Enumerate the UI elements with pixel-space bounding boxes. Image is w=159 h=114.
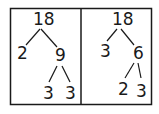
branch-line [49,66,57,82]
tree-root: 18 [33,9,55,29]
factor-trees-diagram: 18 2 9 3 3 18 3 6 2 3 [0,0,159,114]
tree-leaf: 3 [65,83,76,103]
branch-line [125,63,134,78]
tree-node: 9 [55,45,66,65]
factor-tree-right: 18 3 6 2 3 [100,9,147,101]
tree-leaf: 2 [118,79,129,99]
branch-line [138,63,141,78]
tree-leaf: 3 [136,81,147,101]
tree-node: 3 [100,41,111,61]
tree-node: 2 [17,43,28,63]
tree-leaf: 3 [43,83,54,103]
factor-tree-left: 18 2 9 3 3 [17,9,76,103]
branch-line [26,29,40,45]
tree-root: 18 [112,9,134,29]
branch-line [62,66,70,82]
branch-line [107,29,117,41]
tree-node: 6 [133,43,144,63]
